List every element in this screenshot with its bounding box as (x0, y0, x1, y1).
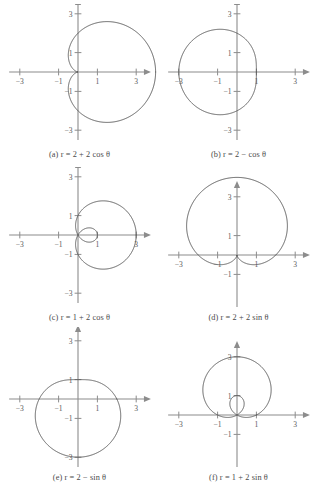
svg-text:−3: −3 (16, 404, 24, 413)
caption-b: (b) r = 2 − cos θ (159, 150, 318, 159)
panel-c: −3−113−3−113 (c) r = 1 + 2 cos θ (0, 167, 159, 330)
panel-d: −3−113−3−113 (d) r = 2 + 2 sin θ (159, 167, 318, 330)
svg-text:3: 3 (293, 420, 297, 429)
svg-text:−1: −1 (223, 430, 231, 439)
svg-text:1: 1 (69, 212, 73, 221)
panel-a: −3−113−3−113 (a) r = 2 + 2 cos θ (0, 4, 159, 167)
svg-text:1: 1 (228, 49, 232, 58)
svg-text:1: 1 (96, 240, 100, 249)
svg-text:3: 3 (134, 77, 138, 86)
svg-text:−1: −1 (214, 77, 222, 86)
caption-f: (f) r = 1 + 2 sin θ (159, 473, 318, 482)
caption-a: (a) r = 2 + 2 cos θ (0, 150, 159, 159)
svg-text:−1: −1 (64, 414, 72, 423)
svg-text:−3: −3 (16, 77, 24, 86)
svg-text:3: 3 (69, 173, 73, 182)
plot-area-d: −3−113−3−113 (159, 167, 318, 307)
svg-text:−3: −3 (223, 126, 231, 135)
svg-text:−1: −1 (55, 77, 63, 86)
svg-text:1: 1 (228, 232, 232, 241)
plot-area-f: −3−113−3−113 (159, 327, 318, 467)
svg-text:−1: −1 (55, 240, 63, 249)
svg-text:−1: −1 (55, 404, 63, 413)
plot-area-b: −3−113−3−113 (159, 4, 318, 144)
svg-text:−3: −3 (175, 420, 183, 429)
svg-text:3: 3 (69, 10, 73, 19)
svg-text:−3: −3 (64, 453, 72, 462)
svg-text:3: 3 (228, 10, 232, 19)
svg-text:−1: −1 (223, 270, 231, 279)
svg-text:−3: −3 (64, 289, 72, 298)
svg-text:3: 3 (69, 337, 73, 346)
panel-f: −3−113−3−113 (f) r = 1 + 2 sin θ (159, 327, 318, 490)
svg-text:3: 3 (293, 77, 297, 86)
svg-text:3: 3 (293, 260, 297, 269)
svg-text:−1: −1 (64, 250, 72, 259)
polar-graphs-figure: −3−113−3−113 (a) r = 2 + 2 cos θ −3−113−… (0, 0, 318, 490)
caption-e: (e) r = 2 − sin θ (0, 473, 159, 482)
plot-area-c: −3−113−3−113 (0, 167, 159, 307)
svg-text:−3: −3 (64, 126, 72, 135)
svg-text:−3: −3 (175, 260, 183, 269)
svg-text:1: 1 (255, 420, 259, 429)
caption-d: (d) r = 2 + 2 sin θ (159, 313, 318, 322)
plot-area-e: −3−113−3−113 (0, 327, 159, 467)
plot-area-a: −3−113−3−113 (0, 4, 159, 144)
svg-text:1: 1 (96, 77, 100, 86)
svg-text:3: 3 (134, 404, 138, 413)
svg-text:−3: −3 (16, 240, 24, 249)
svg-text:3: 3 (228, 193, 232, 202)
svg-text:1: 1 (96, 404, 100, 413)
svg-text:−1: −1 (214, 420, 222, 429)
panel-e: −3−113−3−113 (e) r = 2 − sin θ (0, 327, 159, 490)
panel-b: −3−113−3−113 (b) r = 2 − cos θ (159, 4, 318, 167)
svg-text:−1: −1 (223, 87, 231, 96)
caption-c: (c) r = 1 + 2 cos θ (0, 313, 159, 322)
